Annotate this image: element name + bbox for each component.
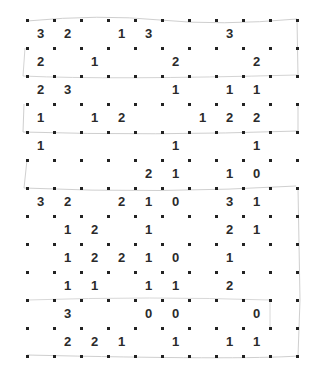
cell-clue[interactable]: 2	[243, 48, 270, 76]
cell-clue[interactable]	[54, 132, 81, 160]
cell-clue[interactable]: 1	[243, 188, 270, 216]
cell-clue[interactable]: 1	[216, 160, 243, 188]
cell-clue[interactable]: 1	[243, 132, 270, 160]
cell-clue[interactable]	[108, 132, 135, 160]
cell-clue[interactable]	[189, 188, 216, 216]
cell-clue[interactable]	[270, 132, 297, 160]
cell-clue[interactable]: 1	[135, 244, 162, 272]
cell-clue[interactable]: 1	[216, 328, 243, 356]
cell-clue[interactable]: 2	[108, 244, 135, 272]
cell-clue[interactable]	[135, 104, 162, 132]
cell-clue[interactable]: 1	[27, 104, 54, 132]
cell-clue[interactable]: 1	[216, 76, 243, 104]
cell-clue[interactable]	[135, 48, 162, 76]
cell-clue[interactable]	[189, 20, 216, 48]
cell-clue[interactable]	[189, 132, 216, 160]
cell-clue[interactable]	[162, 216, 189, 244]
cell-clue[interactable]: 0	[162, 244, 189, 272]
cell-clue[interactable]	[216, 48, 243, 76]
cell-clue[interactable]	[270, 160, 297, 188]
cell-clue[interactable]	[162, 20, 189, 48]
cell-clue[interactable]	[270, 244, 297, 272]
cell-clue[interactable]	[189, 300, 216, 328]
cell-clue[interactable]	[108, 300, 135, 328]
cell-clue[interactable]	[216, 132, 243, 160]
cell-clue[interactable]: 2	[108, 188, 135, 216]
cell-clue[interactable]	[270, 216, 297, 244]
cell-clue[interactable]: 1	[81, 104, 108, 132]
cell-clue[interactable]	[81, 160, 108, 188]
cell-clue[interactable]	[27, 328, 54, 356]
cell-clue[interactable]	[189, 76, 216, 104]
cell-clue[interactable]	[189, 48, 216, 76]
cell-clue[interactable]: 1	[162, 76, 189, 104]
cell-clue[interactable]	[81, 300, 108, 328]
cell-clue[interactable]	[81, 76, 108, 104]
cell-clue[interactable]: 3	[27, 188, 54, 216]
cell-clue[interactable]: 2	[216, 216, 243, 244]
cell-clue[interactable]: 2	[81, 328, 108, 356]
cell-clue[interactable]: 2	[135, 160, 162, 188]
cell-clue[interactable]: 1	[81, 272, 108, 300]
cell-clue[interactable]	[81, 132, 108, 160]
cell-clue[interactable]: 0	[162, 300, 189, 328]
cell-clue[interactable]	[270, 104, 297, 132]
cell-clue[interactable]: 0	[135, 300, 162, 328]
cell-clue[interactable]: 1	[162, 328, 189, 356]
cell-clue[interactable]: 1	[27, 132, 54, 160]
cell-clue[interactable]	[189, 272, 216, 300]
cell-clue[interactable]: 1	[54, 244, 81, 272]
cell-clue[interactable]	[135, 132, 162, 160]
cell-clue[interactable]: 3	[54, 300, 81, 328]
cell-clue[interactable]: 2	[81, 216, 108, 244]
cell-clue[interactable]: 3	[135, 20, 162, 48]
cell-clue[interactable]: 1	[216, 244, 243, 272]
cell-clue[interactable]	[54, 104, 81, 132]
cell-clue[interactable]: 1	[81, 48, 108, 76]
cell-clue[interactable]	[54, 160, 81, 188]
cell-clue[interactable]	[108, 48, 135, 76]
cell-clue[interactable]	[270, 328, 297, 356]
cell-clue[interactable]: 1	[162, 272, 189, 300]
cell-clue[interactable]: 1	[54, 272, 81, 300]
cell-clue[interactable]: 2	[162, 48, 189, 76]
cell-clue[interactable]: 2	[216, 272, 243, 300]
cell-clue[interactable]	[243, 20, 270, 48]
cell-clue[interactable]	[270, 188, 297, 216]
cell-clue[interactable]	[81, 188, 108, 216]
cell-clue[interactable]: 3	[216, 188, 243, 216]
cell-clue[interactable]	[81, 20, 108, 48]
cell-clue[interactable]: 3	[54, 76, 81, 104]
cell-clue[interactable]	[162, 104, 189, 132]
cell-clue[interactable]	[216, 300, 243, 328]
cell-clue[interactable]	[189, 328, 216, 356]
cell-clue[interactable]: 2	[27, 76, 54, 104]
cell-clue[interactable]: 2	[27, 48, 54, 76]
cell-clue[interactable]: 2	[54, 188, 81, 216]
cell-clue[interactable]	[27, 244, 54, 272]
cell-clue[interactable]	[270, 300, 297, 328]
cell-clue[interactable]: 2	[216, 104, 243, 132]
cell-clue[interactable]	[108, 160, 135, 188]
cell-clue[interactable]	[54, 48, 81, 76]
cell-clue[interactable]: 1	[189, 104, 216, 132]
cell-clue[interactable]: 0	[162, 188, 189, 216]
cell-clue[interactable]: 1	[108, 20, 135, 48]
cell-clue[interactable]: 1	[135, 188, 162, 216]
cell-clue[interactable]	[135, 328, 162, 356]
cell-clue[interactable]	[108, 216, 135, 244]
cell-clue[interactable]	[189, 244, 216, 272]
cell-clue[interactable]: 0	[243, 300, 270, 328]
cell-clue[interactable]: 3	[216, 20, 243, 48]
cell-clue[interactable]	[243, 244, 270, 272]
cell-clue[interactable]	[27, 300, 54, 328]
cell-clue[interactable]	[189, 160, 216, 188]
cell-clue[interactable]: 2	[81, 244, 108, 272]
cell-clue[interactable]: 1	[162, 160, 189, 188]
cell-clue[interactable]: 2	[108, 104, 135, 132]
cell-clue[interactable]	[270, 272, 297, 300]
cell-clue[interactable]: 1	[243, 328, 270, 356]
cell-clue[interactable]: 3	[27, 20, 54, 48]
cell-clue[interactable]	[270, 20, 297, 48]
cell-clue[interactable]	[27, 216, 54, 244]
